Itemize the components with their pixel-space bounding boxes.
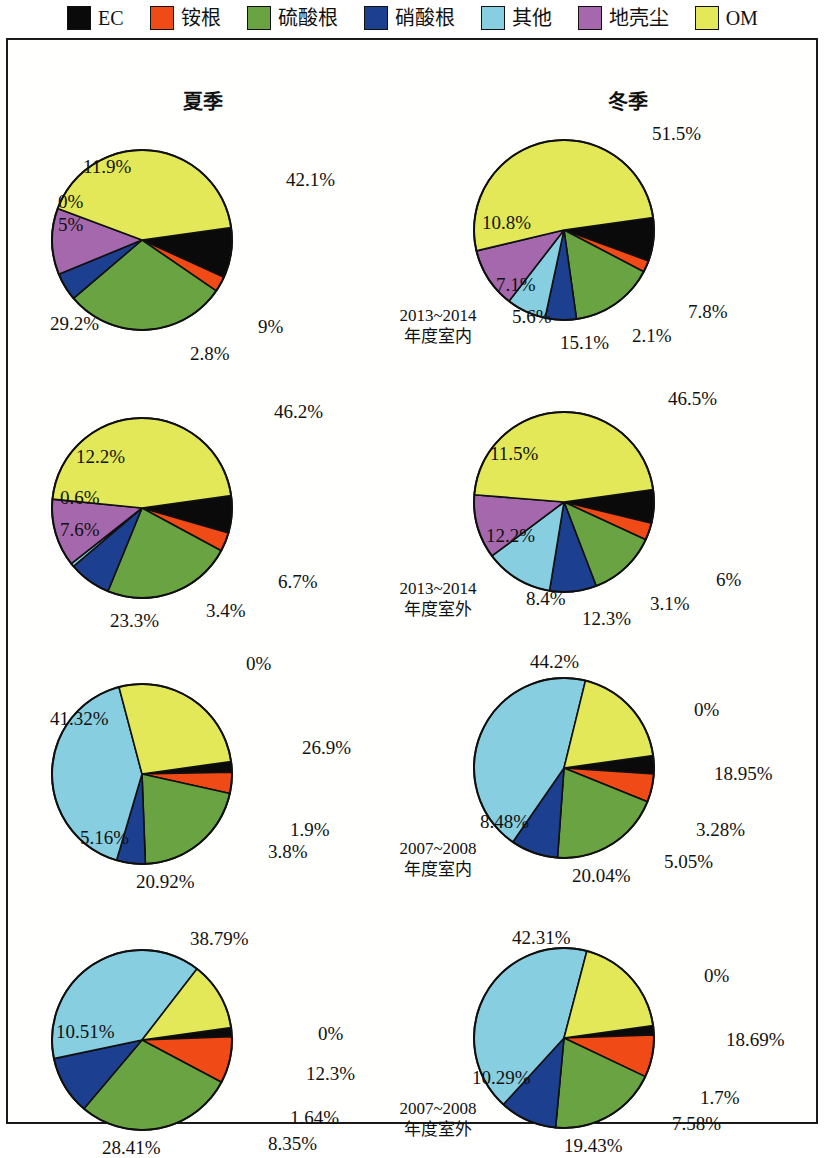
pie-value-label: 1.7% [700,1088,740,1107]
pie-value-label: 7.1% [496,275,536,294]
pie-value-label: 3.8% [268,842,308,861]
pie-graphic-winter-2013-outdoor [472,374,802,642]
pie-value-label: 26.9% [302,738,351,757]
pie-value-label: 51.5% [652,124,701,143]
legend-swatch-ec [67,6,91,30]
pie-value-label: 8.35% [268,1134,317,1153]
pie-value-label: 38.79% [190,929,249,948]
pie-value-label: 11.5% [490,444,538,463]
pie-chart-winter-2013-indoor: 7.8%2.1%15.1%5.6%7.1%10.8%51.5% [472,102,802,370]
pie-chart-winter-2007-outdoor: 1.7%7.58%19.43%10.29%42.31%0%18.69% [472,910,802,1158]
pie-value-label: 28.41% [102,1138,161,1157]
legend-swatch-om [695,6,719,30]
pie-value-label: 5.05% [664,852,713,871]
pie-value-label: 2.8% [190,344,230,363]
pie-value-label: 46.5% [668,389,717,408]
pie-value-label: 5% [58,215,83,234]
column-header-summer: 夏季 [143,86,263,115]
pie-chart-summer-2007-outdoor: 1.64%8.35%28.41%10.51%38.79%0%12.3% [50,912,380,1158]
legend-label-other: 其他 [512,8,552,28]
pie-value-label: 6% [716,570,741,589]
pie-value-label: 7.6% [60,520,100,539]
legend-item-om: OM [695,6,758,30]
pie-value-label: 9% [258,317,283,336]
pie-value-label: 3.1% [650,594,690,613]
legend-label-dust: 地壳尘 [609,8,669,28]
pie-chart-winter-2007-indoor: 3.28%5.05%20.04%8.48%44.2%0%18.95% [472,640,802,908]
pie-value-label: 18.69% [726,1030,785,1049]
legend-label-ec: EC [98,8,124,28]
pie-value-label: 1.9% [290,820,330,839]
pie-chart-summer-2013-indoor: 9%2.8%29.2%5%0%11.9%42.1% [50,112,380,380]
pie-value-label: 41.32% [50,709,109,728]
pie-value-label: 6.7% [278,572,318,591]
pie-value-label: 0.6% [60,488,100,507]
pie-value-label: 10.29% [472,1068,531,1087]
chart-frame: 夏季 冬季 2013~2014年度室内2013~2014年度室外2007~200… [6,38,818,1124]
pie-value-label: 7.58% [672,1114,721,1133]
pie-value-label: 12.3% [582,609,631,628]
pie-value-label: 20.04% [572,866,631,885]
pie-graphic-summer-2007-indoor [50,646,380,914]
pie-value-label: 5.6% [512,307,552,326]
pie-chart-summer-2007-indoor: 1.9%3.8%20.92%5.16%41.32%0%26.9% [50,646,380,914]
legend-swatch-other [481,6,505,30]
pie-value-label: 0% [58,192,83,211]
pie-value-label: 3.4% [206,601,246,620]
legend: EC铵根硫酸根硝酸根其他地壳尘OM [0,0,825,36]
pie-chart-summer-2013-outdoor: 6.7%3.4%23.3%7.6%0.6%12.2%46.2% [50,380,380,648]
legend-item-nh4: 铵根 [150,6,221,30]
legend-swatch-nh4 [150,6,174,30]
pie-value-label: 44.2% [530,652,579,671]
pie-value-label: 3.28% [696,820,745,839]
pie-value-label: 42.31% [512,928,571,947]
pie-value-label: 46.2% [274,402,323,421]
legend-swatch-dust [578,6,602,30]
pie-value-label: 0% [694,700,719,719]
legend-swatch-no3 [364,6,388,30]
pie-value-label: 10.8% [482,213,531,232]
pie-value-label: 20.92% [136,872,195,891]
legend-item-dust: 地壳尘 [578,6,669,30]
legend-item-ec: EC [67,6,124,30]
legend-item-so4: 硫酸根 [247,6,338,30]
pie-value-label: 0% [704,966,729,985]
pie-value-label: 0% [246,654,271,673]
pie-value-label: 8.48% [480,812,529,831]
pie-value-label: 29.2% [50,314,99,333]
pie-value-label: 19.43% [564,1136,623,1155]
pie-graphic-summer-2013-indoor [50,112,380,380]
pie-value-label: 11.9% [83,157,131,176]
legend-label-no3: 硝酸根 [395,8,455,28]
pie-value-label: 7.8% [688,302,728,321]
pie-value-label: 2.1% [632,326,672,345]
pie-value-label: 8.4% [526,589,566,608]
legend-item-no3: 硝酸根 [364,6,455,30]
legend-item-other: 其他 [481,6,552,30]
pie-value-label: 23.3% [110,611,159,630]
pie-value-label: 10.51% [56,1022,115,1041]
pie-value-label: 12.2% [76,447,125,466]
legend-label-om: OM [726,8,758,28]
pie-value-label: 18.95% [714,764,773,783]
legend-swatch-so4 [247,6,271,30]
pie-value-label: 12.3% [306,1064,355,1083]
pie-value-label: 42.1% [286,170,335,189]
pie-value-label: 12.2% [486,526,535,545]
pie-value-label: 5.16% [80,828,129,847]
pie-value-label: 1.64% [290,1108,339,1127]
legend-label-nh4: 铵根 [181,8,221,28]
pie-value-label: 15.1% [560,333,609,352]
legend-label-so4: 硫酸根 [278,8,338,28]
pie-value-label: 0% [318,1024,343,1043]
pie-chart-winter-2013-outdoor: 6%3.1%12.3%8.4%12.2%11.5%46.5% [472,374,802,642]
